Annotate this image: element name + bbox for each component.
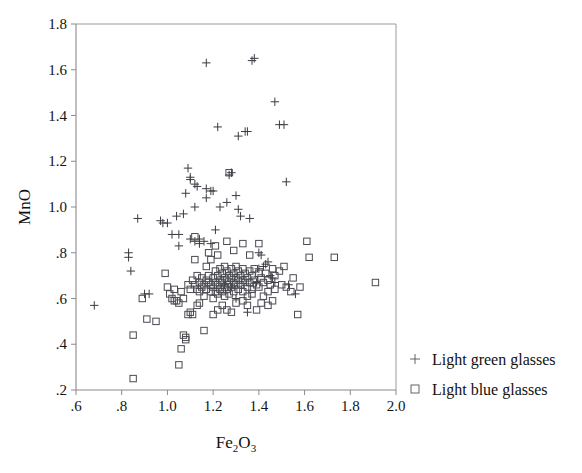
data-point-square bbox=[201, 282, 207, 288]
data-point-square bbox=[240, 240, 246, 246]
data-point-square bbox=[240, 288, 246, 294]
data-point-square bbox=[180, 295, 186, 301]
data-point-square bbox=[253, 307, 259, 313]
data-point-square bbox=[219, 302, 225, 308]
data-point-square bbox=[208, 256, 214, 262]
y-tick-label: .8 bbox=[56, 245, 67, 261]
data-point-square bbox=[290, 275, 296, 281]
data-point-square bbox=[224, 307, 230, 313]
data-point-square bbox=[153, 318, 159, 324]
data-point-square bbox=[144, 316, 150, 322]
y-axis-title: MnO bbox=[15, 189, 34, 225]
data-point-square bbox=[244, 275, 250, 281]
data-point-square bbox=[237, 272, 243, 278]
data-point-square bbox=[210, 295, 216, 301]
data-point-square bbox=[269, 266, 275, 272]
chart-canvas: .2.4.6.81.01.21.41.61.8 .6.81.01.21.41.6… bbox=[0, 0, 582, 473]
legend-entry-light-blue-glasses[interactable]: Light blue glasses bbox=[411, 381, 548, 399]
data-point-square bbox=[231, 270, 237, 276]
data-point-square bbox=[235, 268, 241, 274]
data-point-square bbox=[258, 300, 264, 306]
data-point-square bbox=[203, 286, 209, 292]
data-point-square bbox=[269, 298, 275, 304]
data-point-square bbox=[212, 268, 218, 274]
data-point-square bbox=[194, 286, 200, 292]
data-point-square bbox=[242, 270, 248, 276]
data-point-square bbox=[205, 250, 211, 256]
data-point-square bbox=[265, 288, 271, 294]
y-axis-ticks: .2.4.6.81.01.21.41.61.8 bbox=[48, 16, 76, 398]
data-point-square bbox=[196, 279, 202, 285]
data-point-square bbox=[260, 293, 266, 299]
data-point-square bbox=[169, 295, 175, 301]
x-tick-label: 1.6 bbox=[295, 398, 314, 414]
data-point-square bbox=[221, 263, 227, 269]
data-point-square bbox=[201, 293, 207, 299]
data-point-square bbox=[212, 288, 218, 294]
data-point-square bbox=[176, 362, 182, 368]
series-light-blue-glasses bbox=[130, 169, 379, 381]
y-tick-label: .2 bbox=[56, 382, 67, 398]
data-point-square bbox=[196, 288, 202, 294]
data-point-square bbox=[167, 291, 173, 297]
data-point-square bbox=[260, 279, 266, 285]
data-point-square bbox=[235, 277, 241, 283]
data-point-square bbox=[176, 300, 182, 306]
data-point-square bbox=[233, 263, 239, 269]
data-point-square bbox=[162, 270, 168, 276]
data-point-square bbox=[279, 282, 285, 288]
data-point-square bbox=[192, 282, 198, 288]
data-point-square bbox=[215, 272, 221, 278]
data-point-square bbox=[240, 266, 246, 272]
data-point-square bbox=[183, 336, 189, 342]
data-point-square bbox=[237, 282, 243, 288]
data-point-square bbox=[242, 279, 248, 285]
data-point-square bbox=[249, 272, 255, 278]
data-point-square bbox=[171, 298, 177, 304]
data-point-square bbox=[235, 286, 241, 292]
x-axis-title-fe: Fe bbox=[216, 433, 233, 452]
data-point-square bbox=[224, 268, 230, 274]
data-point-square bbox=[208, 282, 214, 288]
legend-label-light-blue-glasses: Light blue glasses bbox=[432, 381, 548, 399]
data-point-square bbox=[217, 266, 223, 272]
data-point-square bbox=[210, 275, 216, 281]
data-point-square bbox=[306, 254, 312, 260]
data-point-square bbox=[221, 275, 227, 281]
x-tick-label: .6 bbox=[70, 398, 82, 414]
data-point-square bbox=[240, 277, 246, 283]
data-point-square bbox=[215, 307, 221, 313]
data-point-square bbox=[256, 240, 262, 246]
square-marker-icon bbox=[411, 385, 419, 393]
data-point-square bbox=[226, 272, 232, 278]
data-point-square bbox=[233, 275, 239, 281]
data-point-square bbox=[226, 291, 232, 297]
data-point-square bbox=[189, 311, 195, 317]
data-point-square bbox=[171, 286, 177, 292]
legend-label-light-green-glasses: Light green glasses bbox=[432, 351, 556, 369]
x-tick-label: 1.8 bbox=[341, 398, 360, 414]
y-tick-label: 1.0 bbox=[48, 199, 67, 215]
data-point-square bbox=[178, 288, 184, 294]
data-point-square bbox=[189, 277, 195, 283]
data-point-square bbox=[219, 270, 225, 276]
data-point-square bbox=[281, 263, 287, 269]
data-point-square bbox=[228, 309, 234, 315]
data-point-square bbox=[331, 254, 337, 260]
x-tick-label: .8 bbox=[116, 398, 127, 414]
data-point-square bbox=[130, 375, 136, 381]
data-point-square bbox=[221, 293, 227, 299]
legend-entry-light-green-glasses[interactable]: Light green glasses bbox=[410, 351, 556, 369]
data-point-square bbox=[173, 298, 179, 304]
chart-legend: Light green glasses Light blue glasses bbox=[410, 351, 556, 399]
x-axis-ticks: .6.81.01.21.41.61.82.0 bbox=[70, 390, 405, 414]
x-tick-label: 1.4 bbox=[249, 398, 268, 414]
data-point-square bbox=[215, 252, 221, 258]
data-point-square bbox=[247, 279, 253, 285]
data-point-square bbox=[203, 277, 209, 283]
data-point-square bbox=[183, 334, 189, 340]
data-point-square bbox=[258, 275, 264, 281]
data-point-square bbox=[249, 291, 255, 297]
data-point-square bbox=[201, 327, 207, 333]
scatter-plot-figure: .2.4.6.81.01.21.41.61.8 .6.81.01.21.41.6… bbox=[0, 0, 582, 473]
